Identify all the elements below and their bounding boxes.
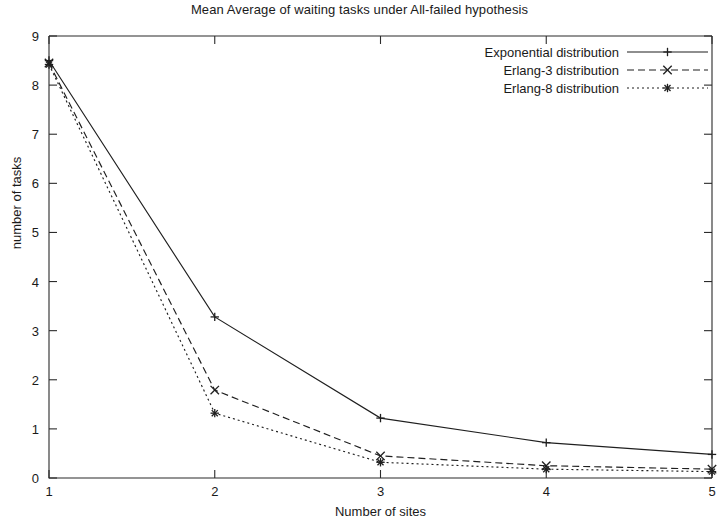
plot-canvas: 012345678912345 Exponential distribution… <box>0 0 719 528</box>
y-tick-label: 6 <box>32 176 39 191</box>
data-point-marker <box>542 438 550 446</box>
x-tick-label: 3 <box>377 484 384 499</box>
legend-label: Erlang-3 distribution <box>503 63 619 78</box>
series-line <box>49 61 712 455</box>
data-series <box>45 56 716 475</box>
data-point-marker <box>376 414 384 422</box>
y-tick-label: 1 <box>32 422 39 437</box>
x-tick-label: 1 <box>45 484 52 499</box>
series-3 <box>45 60 716 476</box>
plot-frame <box>49 36 712 478</box>
series-2 <box>45 59 716 474</box>
legend-label: Exponential distribution <box>485 45 619 60</box>
legend-label: Erlang-8 distribution <box>503 81 619 96</box>
series-1 <box>45 56 716 458</box>
x-tick-label: 4 <box>543 484 550 499</box>
data-point-marker <box>663 84 671 92</box>
data-point-marker <box>211 409 219 417</box>
y-tick-label: 2 <box>32 373 39 388</box>
y-tick-label: 7 <box>32 127 39 142</box>
y-tick-label: 9 <box>32 29 39 44</box>
data-point-marker <box>708 450 716 458</box>
data-point-marker <box>211 386 219 394</box>
y-tick-label: 0 <box>32 471 39 486</box>
y-tick-label: 8 <box>32 78 39 93</box>
series-line <box>49 63 712 469</box>
legend-entry-1: Exponential distribution <box>485 45 708 60</box>
data-point-marker <box>708 467 716 475</box>
chart-figure: Mean Average of waiting tasks under All-… <box>0 0 719 528</box>
x-tick-label: 2 <box>211 484 218 499</box>
data-point-marker <box>211 313 219 321</box>
series-line <box>49 64 712 471</box>
y-tick-label: 4 <box>32 275 39 290</box>
chart-legend: Exponential distributionErlang-3 distrib… <box>485 45 708 96</box>
data-point-marker <box>376 458 384 466</box>
legend-entry-3: Erlang-8 distribution <box>503 81 708 96</box>
data-point-marker <box>663 48 671 56</box>
axes: 012345678912345 <box>32 29 716 499</box>
data-point-marker <box>45 60 53 68</box>
x-tick-label: 5 <box>708 484 715 499</box>
data-point-marker <box>542 465 550 473</box>
y-tick-label: 5 <box>32 225 39 240</box>
legend-entry-2: Erlang-3 distribution <box>503 63 708 78</box>
y-tick-label: 3 <box>32 324 39 339</box>
